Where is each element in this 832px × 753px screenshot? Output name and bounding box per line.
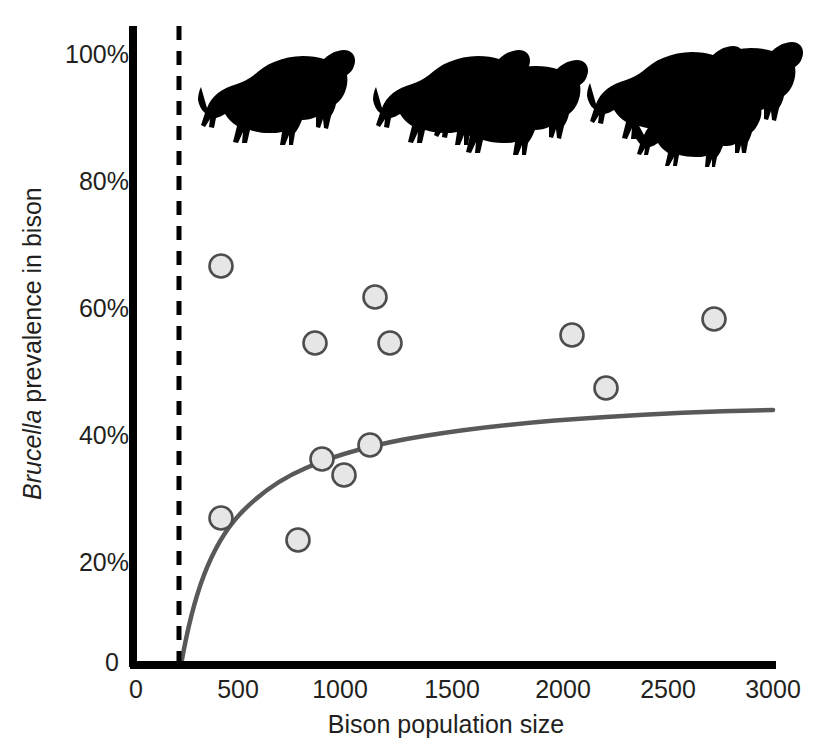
y-tick-label-100: 100% (65, 40, 129, 69)
data-point (703, 308, 726, 331)
data-point (364, 286, 387, 309)
data-point (311, 448, 334, 471)
y-axis-title: Brucella prevalence in bison (18, 187, 47, 500)
data-point (561, 324, 584, 347)
y-tick-label-60: 60% (79, 294, 129, 323)
data-point (359, 434, 382, 457)
origin-zero-label: 0 (105, 648, 119, 677)
chart-canvas (0, 0, 832, 753)
x-tick-label-1000: 1000 (297, 675, 383, 704)
data-point (287, 529, 310, 552)
x-tick-label-2000: 2000 (520, 675, 606, 704)
bison-silhouette-icon (198, 50, 355, 145)
scatter-points (210, 255, 726, 552)
x-tick-label-0: 0 (106, 675, 166, 704)
y-tick-label-20: 20% (79, 548, 129, 577)
x-tick-label-1500: 1500 (409, 675, 495, 704)
data-point (210, 255, 233, 278)
data-point (210, 507, 233, 530)
x-tick-label-500: 500 (198, 675, 278, 704)
bison-group-medium (373, 50, 588, 155)
x-axis-title: Bison population size (296, 710, 596, 739)
data-point (304, 332, 327, 355)
y-axis-title-genus: Brucella (18, 410, 46, 500)
data-point (595, 377, 618, 400)
y-tick-label-80: 80% (79, 167, 129, 196)
y-axis-title-rest: prevalence in bison (18, 187, 46, 409)
bison-group-small (198, 50, 355, 145)
data-point (379, 332, 402, 355)
bison-brucella-scatter-chart: 100% 80% 60% 40% 20% 0 0 500 1000 1500 2… (0, 0, 832, 753)
y-tick-label-40: 40% (79, 421, 129, 450)
bison-group-large (587, 42, 803, 167)
x-tick-label-2500: 2500 (625, 675, 711, 704)
x-tick-label-3000: 3000 (730, 675, 816, 704)
fit-curve (181, 410, 773, 665)
data-point (333, 464, 356, 487)
